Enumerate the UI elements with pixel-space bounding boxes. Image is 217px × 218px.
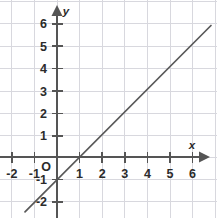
y-tick-label-neg1: -1 (36, 173, 47, 187)
y-tick-label-4: 4 (40, 62, 47, 76)
x-tick-label-3: 3 (121, 167, 128, 181)
coordinate-graph-figure: -2 -1 1 2 3 4 5 6 6 5 4 3 2 1 -1 -2 O x … (0, 0, 217, 218)
y-tick-label-3: 3 (40, 85, 47, 99)
origin-label: O (41, 160, 51, 174)
x-tick-label-neg2: -2 (6, 167, 17, 181)
x-tick-label-1: 1 (76, 167, 83, 181)
y-tick-label-1: 1 (40, 129, 47, 143)
x-axis-label: x (188, 139, 196, 151)
y-tick-label-6: 6 (40, 17, 47, 31)
plot-background (0, 0, 217, 218)
y-tick-label-neg2: -2 (36, 195, 47, 209)
y-tick-label-2: 2 (40, 107, 47, 121)
x-tick-label-5: 5 (167, 167, 174, 181)
x-tick-label-4: 4 (144, 167, 151, 181)
y-tick-label-5: 5 (40, 40, 47, 54)
y-axis-label: y (62, 5, 70, 17)
x-tick-label-6: 6 (189, 167, 196, 181)
x-tick-label-2: 2 (99, 167, 106, 181)
plot-area: -2 -1 1 2 3 4 5 6 6 5 4 3 2 1 -1 -2 O x … (0, 0, 217, 218)
